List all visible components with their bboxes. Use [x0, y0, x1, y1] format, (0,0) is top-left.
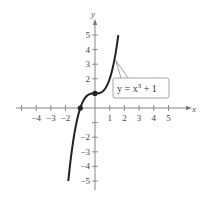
chart-figure: −4−3−2123455432−2−3−4−5 y = x3 + 1 y x: [0, 0, 201, 201]
x-tick-label: 4: [152, 113, 157, 123]
y-tick-label: 2: [86, 74, 91, 84]
x-tick-label: 2: [122, 113, 127, 123]
y-tick-label: −5: [80, 176, 90, 186]
callout-text: y = x: [117, 83, 138, 94]
x-tick-label: −2: [61, 113, 71, 123]
axes: [16, 19, 192, 190]
y-tick-label: 5: [86, 30, 91, 40]
callout-text-tail: + 1: [141, 83, 157, 94]
plot-area: −4−3−2123455432−2−3−4−5 y = x3 + 1 y x: [0, 0, 201, 201]
x-tick-label: 3: [137, 113, 142, 123]
callout-label: y = x3 + 1: [117, 82, 157, 94]
x-tick-label: −3: [46, 113, 56, 123]
intercept-point: [78, 105, 83, 110]
y-tick-label: −3: [80, 147, 90, 157]
x-tick-label: −4: [31, 113, 41, 123]
x-tick-label: 1: [107, 113, 112, 123]
function-callout: y = x3 + 1: [113, 60, 169, 98]
y-tick-label: 4: [86, 45, 91, 55]
y-tick-label: 3: [86, 59, 91, 69]
y-axis-arrow-icon: [93, 19, 97, 25]
y-tick-label: −4: [80, 161, 90, 171]
callout-leader-line: [116, 60, 128, 78]
y-tick-label: −2: [80, 132, 90, 142]
intercept-point: [92, 91, 97, 96]
x-tick-label: 5: [166, 113, 171, 123]
x-axis-label: x: [191, 104, 196, 114]
y-axis-label: y: [90, 9, 95, 19]
